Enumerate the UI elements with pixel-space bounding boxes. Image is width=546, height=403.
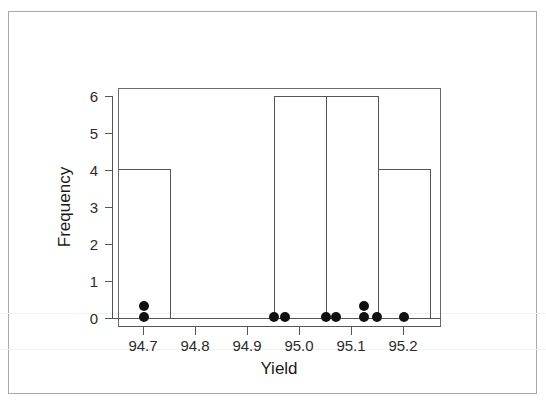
histogram-bar xyxy=(379,170,431,319)
histogram-bar xyxy=(275,97,327,319)
y-tick-label: 3 xyxy=(90,199,98,216)
histogram-bar xyxy=(119,170,171,319)
y-tick-label: 1 xyxy=(90,273,98,290)
y-tick-label: 5 xyxy=(90,125,98,142)
rug-dot xyxy=(280,312,290,322)
y-tick-label: 0 xyxy=(90,310,98,327)
y-tick-label: 2 xyxy=(90,236,98,253)
plot-bounding-box xyxy=(119,89,441,327)
x-axis: 94.7 94.8 94.9 95.0 95.1 95.2 xyxy=(119,327,441,355)
x-tick-label: 95.2 xyxy=(388,337,417,354)
histogram-plot-area: 6 5 4 3 2 1 0 94.7 94.8 94.9 95.0 xyxy=(0,0,546,403)
rug-dot xyxy=(321,312,331,322)
figure-root: 6 5 4 3 2 1 0 94.7 94.8 94.9 95.0 xyxy=(0,0,546,403)
x-axis-title: Yield xyxy=(260,359,297,378)
x-tick-label: 94.9 xyxy=(232,337,261,354)
rug-dot xyxy=(139,301,149,311)
rug-dot xyxy=(359,312,369,322)
x-tick-label: 95.1 xyxy=(336,337,365,354)
rug-dot xyxy=(269,312,279,322)
x-tick-label: 95.0 xyxy=(284,337,313,354)
y-tick-label: 4 xyxy=(90,162,98,179)
histogram-chart: 6 5 4 3 2 1 0 94.7 94.8 94.9 95.0 xyxy=(0,0,546,403)
y-tick-label: 6 xyxy=(90,88,98,105)
rug-dot xyxy=(372,312,382,322)
y-axis: 6 5 4 3 2 1 0 xyxy=(90,88,113,327)
y-axis-title: Frequency xyxy=(55,166,74,247)
rug-dot xyxy=(139,312,149,322)
rug-dot xyxy=(331,312,341,322)
histogram-bars xyxy=(119,97,431,319)
rug-dot xyxy=(359,301,369,311)
histogram-bar xyxy=(327,97,379,319)
x-tick-label: 94.8 xyxy=(180,337,209,354)
rug-dot xyxy=(399,312,409,322)
x-tick-label: 94.7 xyxy=(128,337,157,354)
